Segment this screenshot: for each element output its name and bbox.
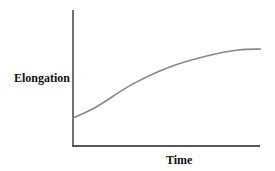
y-axis-label: Elongation [14, 71, 70, 86]
x-axis-label: Time [166, 153, 192, 168]
elongation-curve [73, 49, 261, 118]
